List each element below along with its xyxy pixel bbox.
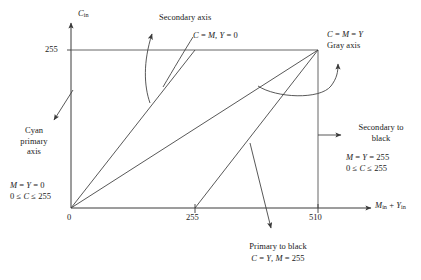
primary-to-black-line [195, 50, 318, 208]
cmy-axes-diagram: Cin Min + Yin 255 0 255 510 Secondary ax… [0, 0, 421, 280]
x-tick-label-0: 0 [67, 212, 71, 222]
primary-to-black-title: Primary to black [228, 241, 328, 252]
gray-axis-leader [258, 64, 338, 96]
cyan-primary-leader [54, 90, 73, 120]
primary-to-black-leader [250, 143, 271, 228]
gray-axis-line [71, 50, 318, 208]
y-axis-label: Cin [78, 8, 89, 21]
cyan-primary-axis-label: Cyan primary axis [8, 125, 60, 157]
cyan-primary-equation-1: M = Y = 0 [10, 180, 45, 191]
secondary-axis-title: Secondary axis [159, 12, 211, 23]
secondary-to-black-equation-2: 0 ≤ C ≤ 255 [346, 163, 387, 174]
x-axis-label: Min + Yin [375, 200, 406, 213]
secondary-to-black-equation-1: M = Y = 255 [346, 152, 389, 163]
x-tick-label-255: 255 [186, 212, 199, 222]
x-tick-label-510: 510 [309, 212, 322, 222]
secondary-axis-equation: C = M, Y = 0 [193, 30, 238, 41]
gray-axis-equation: C = M = Y [327, 29, 363, 40]
secondary-equation-leader [163, 37, 193, 87]
cyan-primary-equation-2: 0 ≤ C ≤ 255 [10, 191, 51, 202]
secondary-axis-leader [145, 34, 152, 103]
primary-to-black-equation: C = Y, M = 255 [228, 253, 328, 264]
secondary-to-black-label: Secondary to black [345, 122, 417, 143]
y-tick-label-255: 255 [45, 44, 58, 54]
secondary-axis-line [71, 50, 195, 208]
gray-axis-title: Gray axis [327, 40, 360, 51]
